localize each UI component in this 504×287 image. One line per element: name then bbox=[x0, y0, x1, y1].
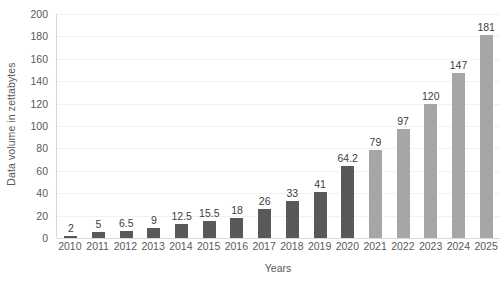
bar-value-label: 18 bbox=[231, 204, 243, 216]
y-tick-label: 40 bbox=[36, 187, 48, 199]
x-axis-tick-labels: 2010201120122013201420152016201720182019… bbox=[56, 240, 500, 258]
bar-slot: 41 bbox=[306, 14, 334, 238]
y-tick-label: 140 bbox=[30, 75, 48, 87]
bar-2023[interactable]: 120 bbox=[424, 104, 437, 238]
x-tick-label: 2022 bbox=[389, 240, 417, 258]
y-tick-label: 60 bbox=[36, 165, 48, 177]
x-axis-title: Years bbox=[56, 262, 500, 274]
bar-value-label: 97 bbox=[397, 115, 409, 127]
x-tick-label: 2020 bbox=[334, 240, 362, 258]
x-tick-label: 2012 bbox=[112, 240, 140, 258]
bar-2018[interactable]: 33 bbox=[286, 201, 299, 238]
bar-2012[interactable]: 6.5 bbox=[120, 231, 133, 238]
y-axis-title: Data volume in zettabytes bbox=[0, 0, 22, 248]
bar-slot: 147 bbox=[445, 14, 473, 238]
bar-slot: 6.5 bbox=[112, 14, 140, 238]
bar-2017[interactable]: 26 bbox=[258, 209, 271, 238]
x-tick-label: 2013 bbox=[139, 240, 167, 258]
y-tick-label: 100 bbox=[30, 120, 48, 132]
bar-slot: 120 bbox=[417, 14, 445, 238]
bar-2015[interactable]: 15.5 bbox=[203, 221, 216, 238]
bar-slot: 9 bbox=[140, 14, 168, 238]
x-tick-label: 2021 bbox=[361, 240, 389, 258]
bar-slot: 181 bbox=[472, 14, 500, 238]
bar-value-label: 9 bbox=[151, 214, 157, 226]
bar-value-label: 79 bbox=[370, 136, 382, 148]
x-tick-label: 2018 bbox=[278, 240, 306, 258]
x-tick-label: 2014 bbox=[167, 240, 195, 258]
bar-chart: Data volume in zettabytes 20018016014012… bbox=[0, 0, 504, 287]
bar-value-label: 120 bbox=[422, 90, 440, 102]
y-axis-title-text: Data volume in zettabytes bbox=[5, 62, 17, 185]
bar-value-label: 181 bbox=[477, 21, 495, 33]
y-tick-label: 180 bbox=[30, 30, 48, 42]
bar-2014[interactable]: 12.5 bbox=[175, 224, 188, 238]
bar-series: 256.5912.515.51826334164.27997120147181 bbox=[57, 14, 500, 238]
x-tick-label: 2017 bbox=[250, 240, 278, 258]
bar-2025[interactable]: 181 bbox=[480, 35, 493, 238]
y-tick-label: 120 bbox=[30, 98, 48, 110]
bar-2010[interactable]: 2 bbox=[64, 236, 77, 238]
x-tick-label: 2025 bbox=[472, 240, 500, 258]
y-tick-label: 80 bbox=[36, 142, 48, 154]
bar-2022[interactable]: 97 bbox=[397, 129, 410, 238]
bar-slot: 97 bbox=[389, 14, 417, 238]
bar-2024[interactable]: 147 bbox=[452, 73, 465, 238]
y-axis-tick-labels: 200180160140120100806040200 bbox=[22, 14, 52, 238]
bar-slot: 26 bbox=[251, 14, 279, 238]
x-tick-label: 2023 bbox=[417, 240, 445, 258]
bar-slot: 18 bbox=[223, 14, 251, 238]
bar-value-label: 6.5 bbox=[119, 217, 134, 229]
bar-value-label: 12.5 bbox=[171, 210, 191, 222]
bar-2019[interactable]: 41 bbox=[314, 192, 327, 238]
y-tick-label: 200 bbox=[30, 8, 48, 20]
x-tick-label: 2016 bbox=[223, 240, 251, 258]
bar-2016[interactable]: 18 bbox=[230, 218, 243, 238]
bar-value-label: 33 bbox=[287, 187, 299, 199]
bar-slot: 5 bbox=[85, 14, 113, 238]
bar-slot: 15.5 bbox=[195, 14, 223, 238]
y-tick-label: 0 bbox=[42, 232, 48, 244]
bar-value-label: 26 bbox=[259, 195, 271, 207]
x-tick-label: 2010 bbox=[56, 240, 84, 258]
bar-slot: 2 bbox=[57, 14, 85, 238]
x-tick-label: 2024 bbox=[445, 240, 473, 258]
y-tick-label: 20 bbox=[36, 210, 48, 222]
bar-slot: 64.2 bbox=[334, 14, 362, 238]
bar-2011[interactable]: 5 bbox=[92, 232, 105, 238]
bar-value-label: 41 bbox=[314, 178, 326, 190]
y-tick-label: 160 bbox=[30, 53, 48, 65]
bar-value-label: 2 bbox=[68, 222, 74, 234]
axis-baseline bbox=[57, 238, 500, 239]
bar-value-label: 147 bbox=[450, 59, 468, 71]
bar-value-label: 64.2 bbox=[338, 152, 358, 164]
bar-2021[interactable]: 79 bbox=[369, 150, 382, 238]
bar-2020[interactable]: 64.2 bbox=[341, 166, 354, 238]
bar-slot: 33 bbox=[279, 14, 307, 238]
x-tick-label: 2015 bbox=[195, 240, 223, 258]
plot-area: 256.5912.515.51826334164.27997120147181 bbox=[56, 14, 500, 238]
x-tick-label: 2019 bbox=[306, 240, 334, 258]
bar-2013[interactable]: 9 bbox=[147, 228, 160, 238]
bar-slot: 12.5 bbox=[168, 14, 196, 238]
bar-value-label: 15.5 bbox=[199, 207, 219, 219]
x-tick-label: 2011 bbox=[84, 240, 112, 258]
bar-slot: 79 bbox=[362, 14, 390, 238]
bar-value-label: 5 bbox=[96, 218, 102, 230]
